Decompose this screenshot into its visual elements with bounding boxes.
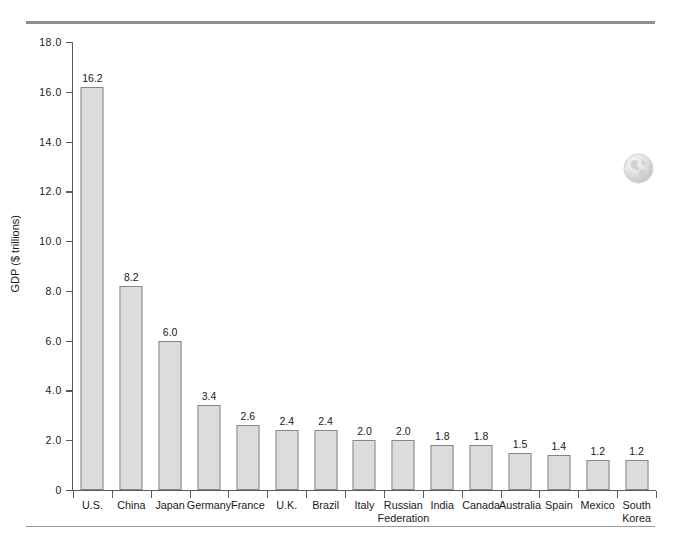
x-axis-category-label: U.S. bbox=[82, 499, 103, 512]
x-axis-tick bbox=[267, 491, 268, 498]
bar[interactable] bbox=[236, 425, 259, 490]
bar-column[interactable]: 1.8 bbox=[423, 42, 462, 490]
bar[interactable] bbox=[81, 87, 104, 490]
x-axis-category-label: SouthKorea bbox=[622, 499, 651, 524]
bar-column[interactable]: 2.4 bbox=[267, 42, 306, 490]
y-axis-tick-label: 14.0 bbox=[39, 136, 62, 148]
bar-value-label: 1.2 bbox=[629, 445, 644, 457]
x-axis-category-label: India bbox=[431, 499, 454, 512]
bar-column[interactable]: 8.2 bbox=[112, 42, 151, 490]
bar-value-label: 6.0 bbox=[163, 326, 178, 338]
bar[interactable] bbox=[431, 445, 454, 490]
y-axis-tick bbox=[66, 142, 73, 143]
bar[interactable] bbox=[120, 286, 143, 490]
x-axis-tick bbox=[656, 491, 657, 498]
y-axis-title: GDP ($ trillions) bbox=[9, 215, 21, 292]
bar-value-label: 1.5 bbox=[513, 438, 528, 450]
x-axis-category-label: Japan bbox=[155, 499, 184, 512]
bar-value-label: 2.4 bbox=[279, 415, 294, 427]
x-axis-tick bbox=[578, 491, 579, 498]
y-axis-tick bbox=[66, 440, 73, 441]
x-axis-tick bbox=[384, 491, 385, 498]
bar-column[interactable]: 6.0 bbox=[151, 42, 190, 490]
x-axis-category-label: Spain bbox=[545, 499, 573, 512]
y-axis-tick bbox=[66, 92, 73, 93]
bar-value-label: 16.2 bbox=[82, 72, 102, 84]
y-axis-tick-label: 8.0 bbox=[46, 285, 62, 297]
bar[interactable] bbox=[392, 440, 415, 490]
x-axis-tick bbox=[345, 491, 346, 498]
bar-value-label: 1.8 bbox=[474, 430, 489, 442]
y-axis-tick bbox=[66, 490, 73, 491]
x-axis-tick bbox=[228, 491, 229, 498]
y-axis-tick bbox=[66, 42, 73, 43]
x-axis-tick bbox=[73, 491, 74, 498]
x-axis-category-label: Germany bbox=[187, 499, 231, 512]
plot-area: 02.04.06.08.010.012.014.016.018.016.28.2… bbox=[73, 42, 656, 490]
bar[interactable] bbox=[625, 460, 648, 490]
bar-value-label: 2.0 bbox=[357, 425, 372, 437]
bar-value-label: 1.2 bbox=[590, 445, 605, 457]
bar-column[interactable]: 1.4 bbox=[539, 42, 578, 490]
bar-column[interactable]: 1.5 bbox=[501, 42, 540, 490]
bar[interactable] bbox=[275, 430, 298, 490]
bar[interactable] bbox=[508, 453, 531, 490]
x-axis-tick bbox=[306, 491, 307, 498]
y-axis-tick-label: 10.0 bbox=[39, 235, 62, 247]
x-axis-category-label: Mexico bbox=[581, 499, 615, 512]
y-axis-tick-label: 18.0 bbox=[39, 36, 62, 48]
bar-column[interactable]: 1.8 bbox=[462, 42, 501, 490]
x-axis-tick bbox=[151, 491, 152, 498]
x-axis-tick bbox=[462, 491, 463, 498]
bar[interactable] bbox=[586, 460, 609, 490]
x-axis-category-label: Italy bbox=[355, 499, 375, 512]
bar-value-label: 1.8 bbox=[435, 430, 450, 442]
y-axis-tick bbox=[66, 191, 73, 192]
bar-column[interactable]: 2.0 bbox=[345, 42, 384, 490]
x-axis-category-label: Australia bbox=[499, 499, 541, 512]
bar-column[interactable]: 2.6 bbox=[228, 42, 267, 490]
bar[interactable] bbox=[159, 341, 182, 490]
y-axis-tick bbox=[66, 241, 73, 242]
x-axis-category-label: Brazil bbox=[312, 499, 339, 512]
bar-value-label: 2.6 bbox=[241, 410, 256, 422]
y-axis-tick-label: 16.0 bbox=[39, 86, 62, 98]
bar-column[interactable]: 2.0 bbox=[384, 42, 423, 490]
globe-icon bbox=[622, 152, 655, 185]
bar-column[interactable]: 2.4 bbox=[306, 42, 345, 490]
bar[interactable] bbox=[470, 445, 493, 490]
y-axis-tick-label: 0 bbox=[56, 484, 62, 496]
y-axis-tick-label: 12.0 bbox=[39, 185, 62, 197]
x-axis-category-label: China bbox=[117, 499, 145, 512]
bar-value-label: 1.4 bbox=[552, 440, 567, 452]
x-axis-tick bbox=[112, 491, 113, 498]
bar[interactable] bbox=[547, 455, 570, 490]
bar-column[interactable]: 16.2 bbox=[73, 42, 112, 490]
x-axis-line bbox=[72, 490, 656, 491]
y-axis-tick-label: 2.0 bbox=[46, 434, 62, 446]
bar[interactable] bbox=[353, 440, 376, 490]
bar-column[interactable]: 1.2 bbox=[617, 42, 656, 490]
x-axis-tick bbox=[501, 491, 502, 498]
y-axis-tick-label: 4.0 bbox=[46, 384, 62, 396]
bar-value-label: 3.4 bbox=[202, 390, 217, 402]
x-axis-tick bbox=[190, 491, 191, 498]
x-axis-tick bbox=[423, 491, 424, 498]
bar-column[interactable]: 1.2 bbox=[578, 42, 617, 490]
bar-value-label: 2.0 bbox=[396, 425, 411, 437]
bar-value-label: 2.4 bbox=[318, 415, 333, 427]
y-axis-tick bbox=[66, 291, 73, 292]
y-axis-tick bbox=[66, 390, 73, 391]
x-axis-category-label: RussianFederation bbox=[378, 499, 430, 524]
bar-column[interactable]: 3.4 bbox=[190, 42, 229, 490]
bar-value-label: 8.2 bbox=[124, 271, 139, 283]
y-axis-tick bbox=[66, 341, 73, 342]
x-axis-category-label: Canada bbox=[462, 499, 500, 512]
bar[interactable] bbox=[198, 405, 221, 490]
figure-page: GDP ($ trillions) 02.04.06.08.010.012.01… bbox=[0, 0, 679, 548]
bar[interactable] bbox=[314, 430, 337, 490]
x-axis-category-label: U.K. bbox=[276, 499, 297, 512]
x-axis-tick bbox=[539, 491, 540, 498]
bar-chart: GDP ($ trillions) 02.04.06.08.010.012.01… bbox=[0, 0, 679, 548]
y-axis-tick-label: 6.0 bbox=[46, 335, 62, 347]
